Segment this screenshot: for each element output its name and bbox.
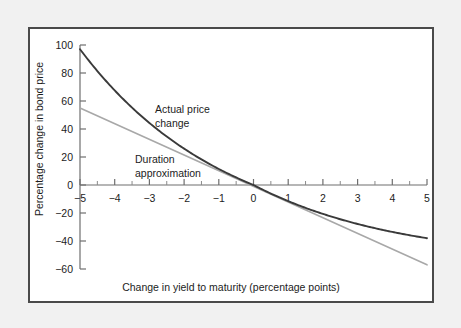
figure-root: −60−40−20020406080100 −5−4−3−2−1012345 A… xyxy=(0,0,461,328)
annotation-duration-approximation: Durationapproximation xyxy=(135,153,201,179)
x-axis-tick-label: 0 xyxy=(251,192,257,204)
x-axis-tick-label: −1 xyxy=(213,192,225,204)
annotation-line: approximation xyxy=(135,167,201,179)
x-axis-title: Change in yield to maturity (percentage … xyxy=(122,281,340,293)
annotation-line: Duration xyxy=(135,153,175,165)
y-axis-tick-label: 80 xyxy=(61,67,73,79)
annotation-line: Actual price xyxy=(155,103,210,115)
chart-panel: −60−40−20020406080100 −5−4−3−2−1012345 A… xyxy=(28,27,434,303)
annotation-actual-price-change: Actual pricechange xyxy=(155,103,210,129)
y-axis-tick-label: 100 xyxy=(55,39,73,51)
data-series-group xyxy=(80,49,427,265)
x-axis-tick-label: 4 xyxy=(389,192,395,204)
x-axis: −5−4−3−2−1012345 xyxy=(74,179,430,204)
x-axis-tick-label: −3 xyxy=(143,192,155,204)
x-axis-tick-label: −4 xyxy=(109,192,121,204)
y-axis-tick-label: 40 xyxy=(61,123,73,135)
x-axis-tick-label: −2 xyxy=(178,192,190,204)
bond-price-duration-chart: −60−40−20020406080100 −5−4−3−2−1012345 A… xyxy=(30,29,432,301)
x-axis-tick-label: 2 xyxy=(320,192,326,204)
series-actual-price-change xyxy=(80,49,427,238)
y-axis-tick-label: −60 xyxy=(55,263,73,275)
y-axis-tick-label: −20 xyxy=(55,207,73,219)
y-axis-title: Percentage change in bond price xyxy=(33,62,45,216)
y-axis-tick-label: 0 xyxy=(67,179,73,191)
y-axis-tick-label: 20 xyxy=(61,151,73,163)
y-axis: −60−40−20020406080100 xyxy=(55,39,86,275)
y-axis-tick-label: 60 xyxy=(61,95,73,107)
x-axis-tick-label: −5 xyxy=(74,192,86,204)
x-axis-tick-label: 3 xyxy=(355,192,361,204)
series-duration-approximation xyxy=(80,108,427,265)
annotation-line: change xyxy=(155,117,190,129)
x-axis-tick-label: 5 xyxy=(424,192,430,204)
y-axis-tick-label: −40 xyxy=(55,235,73,247)
